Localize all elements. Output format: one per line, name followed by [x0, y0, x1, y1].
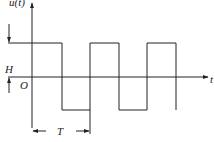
origin-label: O [20, 79, 28, 91]
y-axis-label: u(t) [9, 0, 25, 9]
square-wave-diagram: u(t) t H O T [0, 0, 215, 142]
amplitude-label: H [4, 63, 14, 75]
x-axis-label: t [210, 73, 214, 85]
period-label: T [57, 125, 64, 137]
